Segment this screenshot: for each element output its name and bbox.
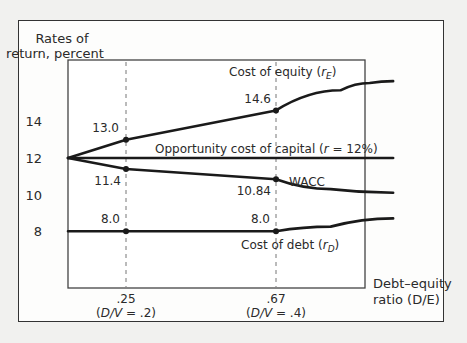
label-cost-of-debt: Cost of debt (rD): [241, 238, 339, 254]
x-axis-title-line1: Debt–equity: [373, 276, 452, 291]
data-point: [123, 228, 129, 234]
data-point: [273, 107, 279, 113]
data-label: 13.0: [92, 121, 119, 135]
label-wacc: WACC: [289, 175, 325, 189]
label-cost-of-equity: Cost of equity (rE): [229, 65, 336, 81]
data-point: [273, 228, 279, 234]
x-tick-label: .25: [116, 292, 135, 306]
chart-svg: Rates of return, percent Debt–equity rat…: [0, 0, 467, 343]
label-opportunity-cost: Opportunity cost of capital (r = 12%): [155, 142, 378, 156]
y-axis-title-line1: Rates of: [35, 31, 89, 46]
x-tick-sublabel: (D/V = .4): [246, 306, 306, 320]
x-tick-label: .67: [266, 292, 285, 306]
data-label: 8.0: [251, 212, 270, 226]
y-tick-labels: 8101214: [25, 114, 42, 239]
x-axis-title-line2: ratio (D/E): [373, 292, 440, 307]
data-point: [123, 137, 129, 143]
y-axis-title-line2: return, percent: [6, 46, 104, 61]
x-tick-sublabel: (D/V = .2): [96, 306, 156, 320]
y-tick-12: 12: [25, 151, 42, 166]
data-point: [273, 176, 279, 182]
data-label: 11.4: [94, 174, 121, 188]
y-tick-10: 10: [25, 188, 42, 203]
data-label: 10.84: [237, 184, 271, 198]
y-tick-8: 8: [34, 224, 42, 239]
data-point: [123, 166, 129, 172]
data-label: 8.0: [101, 212, 120, 226]
y-tick-14: 14: [25, 114, 42, 129]
data-label: 14.6: [244, 92, 271, 106]
